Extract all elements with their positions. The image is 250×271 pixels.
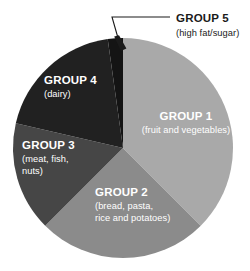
slice-label-group-2-sublabel-line2: rice and potatoes)	[95, 213, 170, 223]
slice-label-group-4-sublabel: (dairy)	[44, 89, 71, 99]
slice-label-group-4-title: GROUP 4	[44, 74, 97, 86]
slice-label-group-5-title: GROUP 5	[176, 12, 229, 24]
pie-chart-figure: GROUP 1 (fruit and vegetables) GROUP 2 (…	[0, 0, 250, 271]
slice-label-group-3-sublabel-line1: (meat, fish,	[22, 154, 69, 164]
slice-label-group-2-sublabel-line1: (bread, pasta,	[95, 201, 153, 211]
slice-label-group-3-sublabel-line2: nuts)	[22, 166, 43, 176]
slice-label-group-2-title: GROUP 2	[95, 186, 148, 198]
slice-label-group-5-sublabel: (high fat/sugar)	[176, 28, 239, 38]
slice-label-group-1-title: GROUP 1	[160, 110, 213, 122]
pie-chart-svg: GROUP 1 (fruit and vegetables) GROUP 2 (…	[0, 0, 250, 271]
slice-label-group-1-sublabel: (fruit and vegetables)	[142, 125, 230, 135]
slice-label-group-3-title: GROUP 3	[22, 139, 75, 151]
